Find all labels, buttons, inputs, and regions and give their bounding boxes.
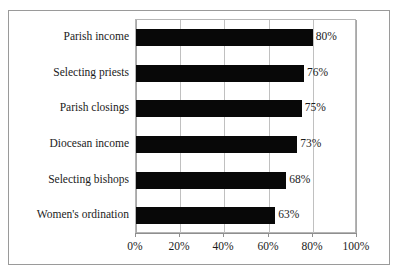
bar-row bbox=[136, 163, 357, 199]
category-label: Selecting bishops bbox=[0, 172, 129, 187]
value-label: 63% bbox=[278, 206, 299, 223]
bar-row bbox=[136, 198, 357, 234]
value-label: 80% bbox=[316, 28, 337, 45]
x-tick-label: 100% bbox=[326, 239, 386, 253]
category-label: Parish closings bbox=[0, 100, 129, 115]
value-label: 76% bbox=[307, 64, 328, 81]
value-label: 75% bbox=[305, 99, 326, 116]
plot-area bbox=[135, 19, 356, 233]
x-tick-80 bbox=[312, 233, 313, 237]
bar bbox=[136, 29, 313, 46]
x-tick-60 bbox=[268, 233, 269, 237]
x-axis-line bbox=[135, 233, 357, 234]
category-label: Women's ordination bbox=[0, 207, 129, 222]
category-label: Parish income bbox=[0, 29, 129, 44]
x-tick-20 bbox=[179, 233, 180, 237]
value-label: 68% bbox=[289, 171, 310, 188]
chart-figure: Parish incomeSelecting priestsParish clo… bbox=[0, 0, 398, 275]
bar-row bbox=[136, 127, 357, 163]
x-tick-0 bbox=[135, 233, 136, 237]
x-tick-100 bbox=[356, 233, 357, 237]
category-label: Selecting priests bbox=[0, 65, 129, 80]
category-label: Diocesan income bbox=[0, 136, 129, 151]
bar bbox=[136, 172, 286, 189]
value-label: 73% bbox=[300, 135, 321, 152]
x-tick-40 bbox=[223, 233, 224, 237]
bar bbox=[136, 65, 304, 82]
bar bbox=[136, 136, 297, 153]
bar bbox=[136, 100, 302, 117]
bar bbox=[136, 207, 275, 224]
